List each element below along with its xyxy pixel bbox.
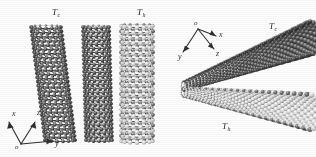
left-panel-graphics (0, 0, 170, 157)
panel-left-side-view: Tc Th (0, 0, 170, 157)
right-panel-graphics (170, 0, 316, 157)
axis-label-origin-left: o (15, 144, 19, 151)
axis-label-y-right: y (178, 53, 182, 61)
nanotube-figure: Tc Th (0, 0, 316, 157)
nanotube-tube-3 (119, 23, 155, 145)
nanotube-tube-1 (29, 24, 77, 143)
nanotube-tube-2 (81, 24, 114, 143)
axes-triad-right (183, 29, 216, 52)
panel-right-perspective-view: Tc Th o x y z (170, 0, 316, 157)
nanotube-bundle-lower (181, 86, 316, 132)
axis-label-z-left: z (37, 109, 40, 117)
axis-label-z-right: z (216, 50, 219, 58)
axis-label-y-left: y (55, 140, 59, 148)
axis-label-x-right: x (219, 31, 223, 39)
axis-label-x-left: x (12, 110, 16, 118)
axis-label-origin-right: o (194, 20, 198, 27)
